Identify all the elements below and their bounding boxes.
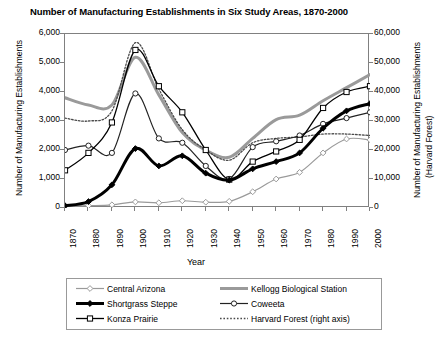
legend-label: Konza Prairie (107, 314, 158, 324)
x-axis-tick-label: 1990 (350, 229, 360, 248)
y-axis-tick-left (60, 120, 64, 121)
x-axis-tick (111, 207, 112, 211)
y-axis-title-right-line2: (Harvard Forest) (424, 116, 434, 178)
data-point-marker-open-square (65, 168, 68, 173)
data-point-marker-open-square (109, 120, 114, 125)
y-axis-tick-label-left: 0 (20, 201, 60, 211)
data-point-marker-open-square (297, 137, 302, 142)
x-axis-tick-label: 1870 (68, 229, 78, 248)
y-axis-tick-right (369, 120, 373, 121)
y-axis-tick-left (60, 91, 64, 92)
y-axis-tick-right (369, 149, 373, 150)
legend-item-coweeta[interactable]: Coweeta (219, 298, 285, 309)
x-axis-tick-label: 1960 (279, 229, 289, 248)
y-axis-tick-right (369, 91, 373, 92)
legend-item-harvard-forest-right-axis[interactable]: Harvard Forest (right axis) (219, 313, 350, 324)
data-point-marker-open-circle (156, 136, 161, 141)
data-point-marker-open-square (87, 316, 92, 321)
legend-label: Kellogg Biological Station (251, 284, 347, 294)
data-point-marker-open-square (274, 149, 279, 154)
x-axis-tick-label: 1940 (232, 229, 242, 248)
y-axis-tick-left (60, 62, 64, 63)
data-point-marker-open-diamond (367, 137, 370, 143)
data-point-marker-open-circle (86, 143, 91, 148)
chart-legend: Central ArizonaKellogg Biological Statio… (66, 278, 382, 330)
legend-item-central-arizona[interactable]: Central Arizona (75, 283, 165, 294)
data-point-marker-filled-diamond (87, 301, 93, 307)
x-axis-tick-label: 1880 (91, 229, 101, 248)
data-point-marker-open-circle (344, 116, 349, 121)
y-axis-tick-label-left: 3,000 (20, 114, 60, 124)
x-axis-tick (346, 207, 347, 211)
x-axis-tick-label: 1900 (138, 229, 148, 248)
data-point-marker-open-square (344, 89, 349, 94)
x-axis-tick (252, 207, 253, 211)
y-axis-tick-right (369, 178, 373, 179)
y-axis-tick-label-left: 2,000 (20, 143, 60, 153)
legend-item-shortgrass-steppe[interactable]: Shortgrass Steppe (75, 298, 177, 309)
x-axis-tick (134, 207, 135, 211)
y-axis-tick-label-left: 5,000 (20, 56, 60, 66)
series-line-konza-prairie (65, 49, 370, 180)
x-axis-title: Year (0, 257, 420, 267)
legend-swatch-icon (219, 298, 249, 309)
data-point-marker-open-circle (274, 139, 279, 144)
data-point-marker-open-circle (367, 110, 370, 115)
data-point-marker-open-diamond (203, 199, 209, 205)
x-axis-tick (369, 207, 370, 211)
y-axis-tick-label-right: 30,000 (374, 114, 420, 124)
x-axis-tick-label: 1980 (326, 229, 336, 248)
x-axis-tick (158, 207, 159, 211)
x-axis-tick (275, 207, 276, 211)
chart-figure: Number of Manufacturing Establishments i… (0, 0, 448, 341)
data-point-marker-open-diamond (344, 136, 350, 142)
data-point-marker-open-circle (133, 91, 138, 96)
data-point-marker-open-square (320, 105, 325, 110)
legend-swatch-icon (75, 298, 105, 309)
series-line-central-arizona (65, 138, 370, 206)
legend-swatch-icon (219, 283, 249, 294)
x-axis-tick-label: 1890 (115, 229, 125, 248)
data-point-marker-open-square (156, 84, 161, 89)
data-point-marker-open-diamond (297, 169, 303, 175)
x-axis-tick (322, 207, 323, 211)
y-axis-tick-label-right: 0 (374, 201, 420, 211)
legend-swatch-icon (75, 313, 105, 324)
data-point-marker-open-circle (65, 147, 68, 152)
x-axis-tick-label: 1930 (209, 229, 219, 248)
legend-label: Coweeta (251, 299, 285, 309)
legend-item-kellogg-biological-station[interactable]: Kellogg Biological Station (219, 283, 347, 294)
data-point-marker-open-circle (250, 145, 255, 150)
data-point-marker-open-square (86, 150, 91, 155)
data-point-marker-open-square (203, 147, 208, 152)
data-point-marker-open-square (180, 110, 185, 115)
data-point-marker-open-square (133, 47, 138, 52)
x-axis-tick (64, 207, 65, 211)
y-axis-tick-right (369, 33, 373, 34)
legend-label: Shortgrass Steppe (107, 299, 177, 309)
legend-swatch-icon (75, 283, 105, 294)
x-axis-tick-label: 1910 (162, 229, 172, 248)
legend-item-konza-prairie[interactable]: Konza Prairie (75, 313, 158, 324)
data-point-marker-open-circle (203, 163, 208, 168)
x-axis-tick (205, 207, 206, 211)
x-axis-tick-label: 1950 (256, 229, 266, 248)
y-axis-tick-label-left: 4,000 (20, 85, 60, 95)
data-point-marker-open-diamond (87, 286, 93, 292)
y-axis-tick-label-right: 60,000 (374, 27, 420, 37)
data-point-marker-open-diamond (226, 198, 232, 204)
x-axis-tick (228, 207, 229, 211)
data-point-marker-open-diamond (132, 199, 138, 205)
data-point-marker-open-diamond (109, 202, 115, 208)
y-axis-tick-label-left: 1,000 (20, 172, 60, 182)
chart-title: Number of Manufacturing Establishments i… (30, 6, 348, 17)
legend-label: Central Arizona (107, 284, 165, 294)
x-axis-tick-label: 2000 (373, 229, 383, 248)
data-point-marker-open-circle (231, 301, 236, 306)
data-point-marker-open-square (367, 84, 370, 89)
y-axis-tick-label-right: 40,000 (374, 85, 420, 95)
y-axis-tick-left (60, 149, 64, 150)
data-point-marker-open-diamond (179, 198, 185, 204)
data-point-marker-open-diamond (250, 189, 256, 195)
legend-swatch-icon (219, 313, 249, 324)
